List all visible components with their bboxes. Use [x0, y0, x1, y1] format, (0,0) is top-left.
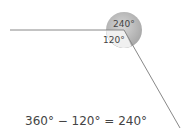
equation-text: 360° − 120° = 240°	[25, 114, 147, 128]
reflex-angle-label: 240°	[113, 19, 135, 29]
interior-angle-label: 120°	[103, 35, 125, 45]
